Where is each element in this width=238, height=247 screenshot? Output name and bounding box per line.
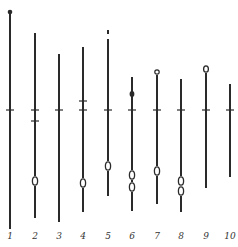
specimen-label: 8 <box>178 231 184 241</box>
loop-icon <box>178 177 183 185</box>
specimen-4: 4 <box>79 47 87 241</box>
loop-icon <box>80 179 85 187</box>
specimen-10: 10 <box>224 84 236 241</box>
specimen-8: 8 <box>177 79 185 241</box>
specimen-label: 2 <box>31 231 38 241</box>
specimen-9: 9 <box>202 66 210 241</box>
tip-ring-icon <box>204 66 209 72</box>
specimen-5: 5 <box>104 30 112 241</box>
specimen-label: 9 <box>203 231 209 241</box>
specimen-label: 7 <box>154 231 160 241</box>
loop-icon <box>32 177 37 185</box>
specimen-6: 6 <box>128 77 136 241</box>
tip-ring-icon <box>155 70 159 74</box>
specimen-1: 1 <box>6 10 14 241</box>
tip-dot-icon <box>8 10 13 15</box>
specimen-3: 3 <box>55 54 63 241</box>
node-dot-icon <box>130 91 135 97</box>
specimen-diagram: 12345678910 <box>0 0 238 247</box>
specimen-label: 6 <box>129 231 135 241</box>
loop-icon <box>178 187 183 195</box>
loop-icon <box>154 167 159 175</box>
loop-icon <box>129 183 134 191</box>
specimen-2: 2 <box>31 33 39 241</box>
specimen-label: 5 <box>105 231 111 241</box>
specimen-7: 7 <box>153 70 161 241</box>
loop-icon <box>129 171 134 179</box>
specimen-label: 10 <box>224 231 236 241</box>
specimen-label: 1 <box>7 231 13 241</box>
loop-icon <box>105 162 110 170</box>
specimen-label: 3 <box>56 231 62 241</box>
specimen-label: 4 <box>79 231 86 241</box>
